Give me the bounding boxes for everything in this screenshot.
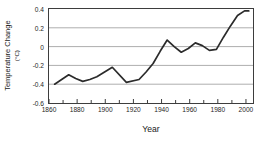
x-tick-label: 1940 — [154, 106, 169, 114]
y-axis-unit-text: (°C) — [12, 21, 21, 91]
x-axis-tick-marks — [49, 99, 246, 103]
x-axis-title: Year — [48, 124, 254, 134]
y-tick-label: 0 — [40, 43, 44, 50]
x-tick-label: 1980 — [210, 106, 225, 114]
data-line-series-0 — [55, 11, 249, 84]
x-tick-label: 1960 — [182, 106, 197, 114]
x-tick-label: 1860 — [42, 106, 57, 114]
y-tick-label: -0.2 — [33, 62, 44, 69]
chart-figure: Temperature Change (°C) 0.40.20-0.2-0.4-… — [0, 0, 264, 148]
y-axis-title: Temperature Change (°C) — [0, 0, 24, 112]
gridlines — [49, 28, 253, 84]
y-axis-title-text: Temperature Change — [2, 21, 11, 91]
x-tick-label: 1920 — [126, 106, 141, 114]
y-axis-tick-labels: 0.40.20-0.2-0.4-0.6 — [22, 8, 46, 104]
x-tick-label: 1900 — [98, 106, 113, 114]
plot-area — [48, 8, 254, 104]
y-tick-label: -0.4 — [33, 81, 44, 88]
line-chart-svg — [49, 9, 253, 103]
x-tick-label: 2000 — [239, 106, 254, 114]
x-axis-tick-labels: 18601880190019201940196019802000 — [48, 106, 254, 118]
y-tick-label: 0.2 — [35, 24, 44, 31]
x-tick-label: 1880 — [70, 106, 85, 114]
y-tick-label: 0.4 — [35, 6, 44, 13]
data-series-group — [55, 11, 249, 84]
